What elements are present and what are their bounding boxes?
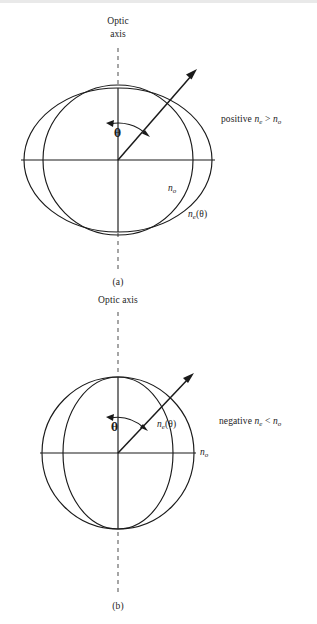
panel-b-ray-line bbox=[118, 378, 189, 453]
panel-a-graphics bbox=[21, 48, 215, 272]
panel-a-caption: (a) bbox=[113, 277, 124, 288]
panel-b-sign-condition-label: negative ne < no bbox=[219, 416, 281, 430]
panel-a-angle-label: θ bbox=[114, 128, 121, 139]
panel-b-extraordinary-arg: (θ) bbox=[165, 419, 176, 429]
panel-b-caption: (b) bbox=[112, 601, 123, 612]
panel-b-graphics bbox=[40, 312, 196, 596]
panel-b-extraordinary-index-label: ne(θ) bbox=[157, 419, 176, 433]
panel-b-ray-arrowhead bbox=[183, 373, 194, 383]
panel-a-angle-arc-arrowhead-left bbox=[106, 120, 114, 127]
panel-a-optic-axis-label-line1: Optic bbox=[107, 16, 129, 27]
panel-a-sign-prefix: positive bbox=[221, 114, 252, 124]
panel-b-angle-label: θ bbox=[111, 422, 118, 433]
panel-b-ordinary-index-label: no bbox=[200, 447, 208, 461]
panel-b-no-subscript: o bbox=[278, 420, 282, 428]
figure-canvas bbox=[0, 0, 317, 624]
figure-root: Optic axis θ positive ne > no no ne(θ) (… bbox=[0, 0, 317, 624]
panel-a-sign-condition-label: positive ne > no bbox=[221, 114, 281, 128]
panel-a-ordinary-subscript: o bbox=[173, 187, 177, 195]
panel-b-optic-axis-label: Optic axis bbox=[98, 295, 138, 306]
panel-a-ray-arrowhead bbox=[186, 69, 197, 80]
panel-b-ordinary-subscript: o bbox=[205, 451, 209, 459]
panel-b-sign-prefix: negative bbox=[219, 416, 252, 426]
panel-b-angle-arc-arrowhead-left bbox=[106, 414, 114, 421]
panel-a-ray-line bbox=[118, 75, 192, 160]
panel-a-ordinary-index-label: no bbox=[168, 183, 176, 197]
panel-a-extraordinary-index-label: ne(θ) bbox=[188, 209, 207, 223]
panel-a-optic-axis-label-line2: axis bbox=[110, 29, 126, 40]
panel-a-extraordinary-arg: (θ) bbox=[196, 209, 207, 219]
panel-a-no-subscript: o bbox=[278, 118, 282, 126]
